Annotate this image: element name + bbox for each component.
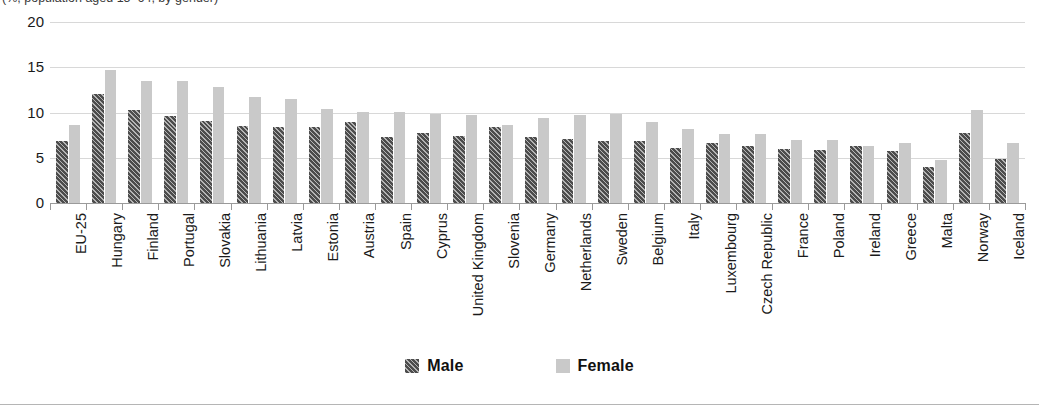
bar-male[interactable] (345, 122, 357, 203)
x-axis-label-spain: Spain (399, 170, 414, 210)
bar-male[interactable] (778, 149, 790, 203)
x-axis-label-latvia: Latvia (290, 168, 305, 210)
bar-male[interactable] (923, 167, 935, 203)
x-axis-label-text: Hungary (110, 210, 125, 268)
x-axis-label-iceland: Iceland (1012, 160, 1027, 210)
x-axis-label-text: Luxembourg (724, 210, 739, 294)
x-axis-label-netherlands: Netherlands (579, 129, 594, 210)
bar-male[interactable] (562, 139, 574, 203)
bar-male[interactable] (237, 126, 249, 203)
bar-male[interactable] (887, 151, 899, 203)
x-axis-label-sweden: Sweden (615, 155, 630, 210)
bar-male[interactable] (453, 136, 465, 203)
y-axis-label-5: 5 (4, 150, 44, 165)
x-axis-label-text: Iceland (1012, 210, 1027, 260)
x-axis-label-text: Lithuania (254, 210, 269, 272)
x-axis-tick (50, 203, 51, 210)
bar-male[interactable] (995, 159, 1007, 203)
x-axis-label-greece: Greece (904, 159, 919, 210)
legend-swatch-female-icon (556, 359, 570, 373)
bar-male[interactable] (814, 150, 826, 203)
x-axis-label-finland: Finland (146, 159, 161, 210)
bar-male[interactable] (670, 148, 682, 203)
x-axis-label-text: Sweden (615, 210, 630, 265)
x-axis-label-text: Portugal (182, 210, 197, 267)
x-axis-label-text: Slovakia (218, 210, 233, 268)
y-axis-label-20: 20 (4, 14, 44, 29)
x-axis-label-text: Belgium (651, 210, 666, 265)
x-axis-label-norway: Norway (976, 158, 991, 210)
bar-male[interactable] (850, 146, 862, 203)
x-axis-label-text: United Kingdom (471, 210, 486, 316)
x-axis-category-labels: EU-25HungaryFinlandPortugalSlovakiaLithu… (50, 210, 1025, 350)
bar-male[interactable] (381, 137, 393, 203)
x-axis-label-text: France (796, 210, 811, 258)
x-axis-label-malta: Malta (940, 172, 955, 210)
x-axis-label-lithuania: Lithuania (254, 148, 269, 210)
x-axis-label-france: France (796, 162, 811, 210)
x-axis-label-text: Netherlands (579, 210, 594, 291)
y-axis-label-10: 10 (4, 105, 44, 120)
bar-chart: (%, population aged 15–64, by gender) 05… (0, 0, 1039, 406)
x-axis-label-text: Czech Republic (760, 210, 775, 315)
legend-swatch-male-icon (405, 359, 419, 373)
x-axis-label-text: Norway (976, 210, 991, 262)
legend-label-male: Male (427, 357, 463, 375)
x-axis-label-text: Spain (399, 210, 414, 250)
x-axis-label-text: Malta (940, 210, 955, 248)
bar-male[interactable] (489, 127, 501, 203)
x-axis-label-text: Slovenia (507, 210, 522, 269)
x-axis-label-text: Poland (832, 210, 847, 258)
bar-male[interactable] (128, 110, 140, 203)
bar-male[interactable] (634, 141, 646, 203)
legend-item-male[interactable]: Male (405, 357, 463, 375)
x-axis-label-czech-republic: Czech Republic (760, 105, 775, 210)
y-axis-label-0: 0 (4, 195, 44, 210)
x-axis-label-portugal: Portugal (182, 153, 197, 210)
x-axis-label-slovakia: Slovakia (218, 152, 233, 210)
x-axis-label-germany: Germany (543, 147, 558, 210)
x-axis-label-belgium: Belgium (651, 155, 666, 210)
x-axis-label-ireland: Ireland (868, 163, 883, 210)
bottom-divider (0, 404, 1039, 405)
x-axis-label-text: EU-25 (74, 210, 89, 254)
bar-male[interactable] (742, 146, 754, 203)
x-axis-label-luxembourg: Luxembourg (724, 126, 739, 210)
x-axis-label-estonia: Estonia (326, 159, 341, 210)
x-axis-label-eu-25: EU-25 (74, 166, 89, 210)
chart-legend: Male Female (0, 357, 1039, 375)
bar-group (664, 22, 700, 203)
x-axis-label-text: Finland (146, 210, 161, 261)
x-axis-label-text: Latvia (290, 210, 305, 252)
y-axis-labels: 05101520 (0, 0, 44, 406)
bar-male[interactable] (164, 116, 176, 203)
x-axis-label-italy: Italy (687, 180, 702, 210)
bar-male[interactable] (417, 133, 429, 203)
x-axis-label-united-kingdom: United Kingdom (471, 104, 486, 210)
x-axis-label-cyprus: Cyprus (435, 161, 450, 210)
x-axis-label-text: Estonia (326, 210, 341, 261)
legend-label-female: Female (578, 357, 634, 375)
bar-male[interactable] (598, 141, 610, 203)
x-axis-label-hungary: Hungary (110, 152, 125, 210)
bar-male[interactable] (56, 141, 68, 203)
x-axis-label-text: Ireland (868, 210, 883, 257)
chart-title-clipped: (%, population aged 15–64, by gender) (0, 0, 1039, 5)
x-axis-label-text: Austria (362, 210, 377, 258)
legend-item-female[interactable]: Female (556, 357, 634, 375)
x-axis-label-text: Italy (687, 210, 702, 240)
y-axis-label-15: 15 (4, 59, 44, 74)
bar-male[interactable] (273, 127, 285, 203)
x-axis-label-text: Greece (904, 210, 919, 261)
bar-male[interactable] (706, 143, 718, 203)
x-axis-label-poland: Poland (832, 162, 847, 210)
x-axis-label-slovenia: Slovenia (507, 151, 522, 210)
bar-male[interactable] (92, 94, 104, 203)
x-axis-label-text: Germany (543, 210, 558, 273)
bar-male[interactable] (309, 127, 321, 203)
bar-male[interactable] (200, 121, 212, 203)
bar-male[interactable] (525, 137, 537, 203)
x-axis-label-austria: Austria (362, 162, 377, 210)
x-axis-label-text: Cyprus (435, 210, 450, 259)
bar-male[interactable] (959, 133, 971, 203)
